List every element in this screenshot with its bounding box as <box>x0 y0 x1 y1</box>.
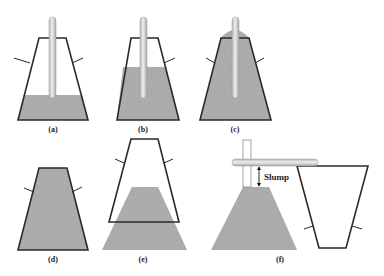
panel-f: Slump (f) <box>211 140 368 264</box>
tamping-rod <box>232 17 239 98</box>
panel-b: (b) <box>117 17 179 134</box>
concrete-fill <box>18 95 88 120</box>
panel-label: (e) <box>139 255 148 264</box>
cone-handle-right <box>164 159 173 163</box>
cone-handle-left <box>14 58 30 63</box>
panel-label: (b) <box>138 125 148 134</box>
panel-label: (c) <box>231 125 240 134</box>
cone-handle-right <box>72 58 83 63</box>
slump-label: Slump <box>264 172 289 182</box>
cone-handle-left <box>304 226 313 229</box>
panel-label: (a) <box>48 125 58 134</box>
cone-handle-left <box>24 188 34 192</box>
cone-handle-left <box>115 159 124 163</box>
slumped-concrete <box>211 187 297 250</box>
cone-handle-right <box>352 226 362 229</box>
horizontal-rod <box>232 159 318 166</box>
panel-label: (d) <box>48 255 58 264</box>
tamping-rod <box>140 17 147 98</box>
panel-e: (e) <box>102 139 187 264</box>
panel-d: (d) <box>18 168 88 264</box>
cone-handle-left <box>206 58 215 63</box>
slump-test-diagram: (a) (b) (c) (d) (e) <box>0 0 384 276</box>
cone-handle-right <box>72 187 82 192</box>
cone-handle-right <box>255 58 264 63</box>
slumped-concrete <box>102 187 187 250</box>
panel-label: (f) <box>276 255 284 264</box>
panel-c: (c) <box>200 17 271 134</box>
panel-a: (a) <box>14 17 88 134</box>
concrete-fill <box>117 67 179 120</box>
slump-dimension-arrow <box>257 167 261 187</box>
inverted-cone-outline <box>297 166 368 248</box>
tamping-rod <box>49 17 56 98</box>
cone-handle-right <box>164 58 175 63</box>
